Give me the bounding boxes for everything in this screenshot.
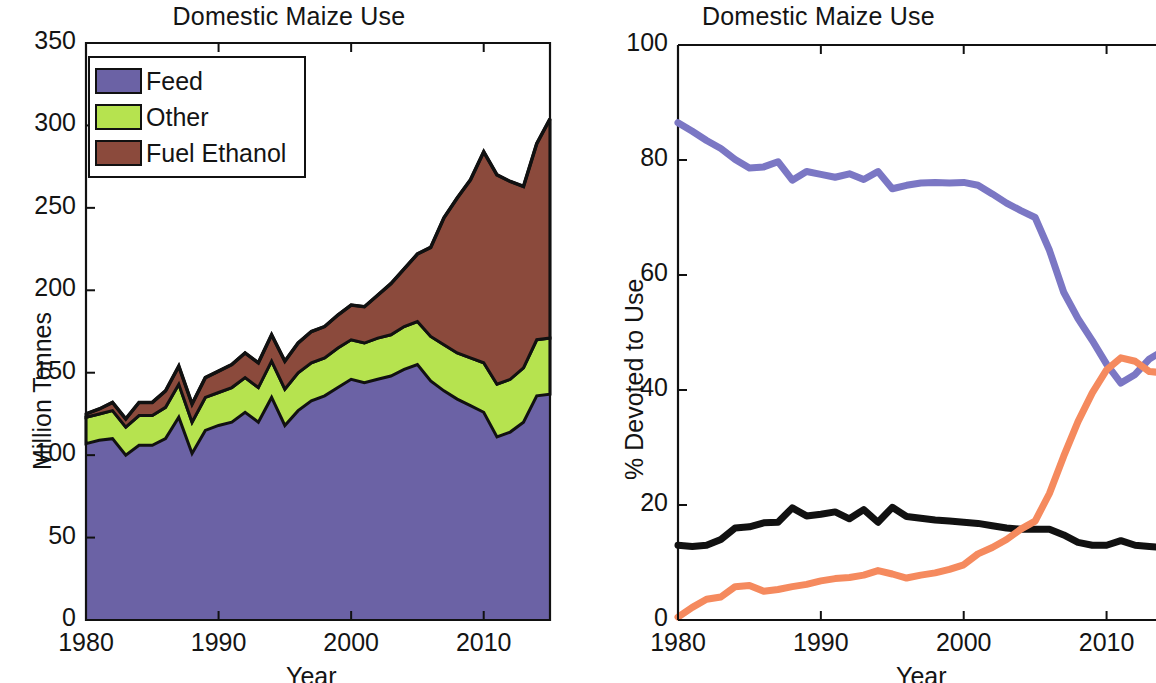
- left-legend-swatch-patch: [95, 140, 142, 166]
- right-y-tick-label: 80: [598, 143, 668, 172]
- chart-panel-right: Domestic Maize Use % Devoted to Use Year…: [578, 0, 1156, 683]
- chart-panel-left: Domestic Maize Use Million Tonnes Year F…: [0, 0, 578, 683]
- left-legend-label: Fuel Ethanol: [146, 141, 286, 166]
- left-y-tick-label: 50: [6, 521, 76, 550]
- left-x-axis-label: Year: [286, 662, 337, 683]
- right-y-tick-label: 40: [598, 373, 668, 402]
- figure-root: Domestic Maize Use Million Tonnes Year F…: [0, 0, 1156, 683]
- line-fuel-ethanol: [678, 358, 1156, 617]
- left-legend: FeedOtherFuel Ethanol: [88, 56, 306, 178]
- left-y-tick-label: 350: [6, 26, 76, 55]
- left-legend-item: Fuel Ethanol: [95, 135, 300, 171]
- left-y-tick-label: 250: [6, 191, 76, 220]
- right-x-tick-label: 1980: [643, 628, 713, 657]
- left-legend-item: Feed: [95, 63, 300, 99]
- left-x-tick-label: 1990: [184, 628, 254, 657]
- right-x-tick-label: 1990: [786, 628, 856, 657]
- left-legend-item: Other: [95, 99, 300, 135]
- line-feed: [678, 123, 1156, 383]
- right-y-tick-label: 60: [598, 258, 668, 287]
- right-x-axis-label: Year: [896, 662, 947, 683]
- left-legend-swatch-patch: [95, 104, 142, 130]
- right-x-tick-label: 2010: [1072, 628, 1142, 657]
- right-line-plot: [578, 0, 1156, 683]
- right-x-tick-label: 2000: [929, 628, 999, 657]
- left-legend-swatch-patch: [95, 68, 142, 94]
- right-y-tick-label: 100: [598, 28, 668, 57]
- left-x-tick-label: 1980: [51, 628, 121, 657]
- right-y-tick-label: 20: [598, 488, 668, 517]
- left-x-tick-label: 2010: [449, 628, 519, 657]
- line-other: [678, 507, 1156, 551]
- left-y-tick-label: 150: [6, 356, 76, 385]
- left-y-tick-label: 300: [6, 108, 76, 137]
- left-legend-label: Feed: [146, 69, 203, 94]
- left-y-tick-label: 100: [6, 438, 76, 467]
- left-y-tick-label: 200: [6, 273, 76, 302]
- left-x-tick-label: 2000: [316, 628, 386, 657]
- left-legend-label: Other: [146, 105, 209, 130]
